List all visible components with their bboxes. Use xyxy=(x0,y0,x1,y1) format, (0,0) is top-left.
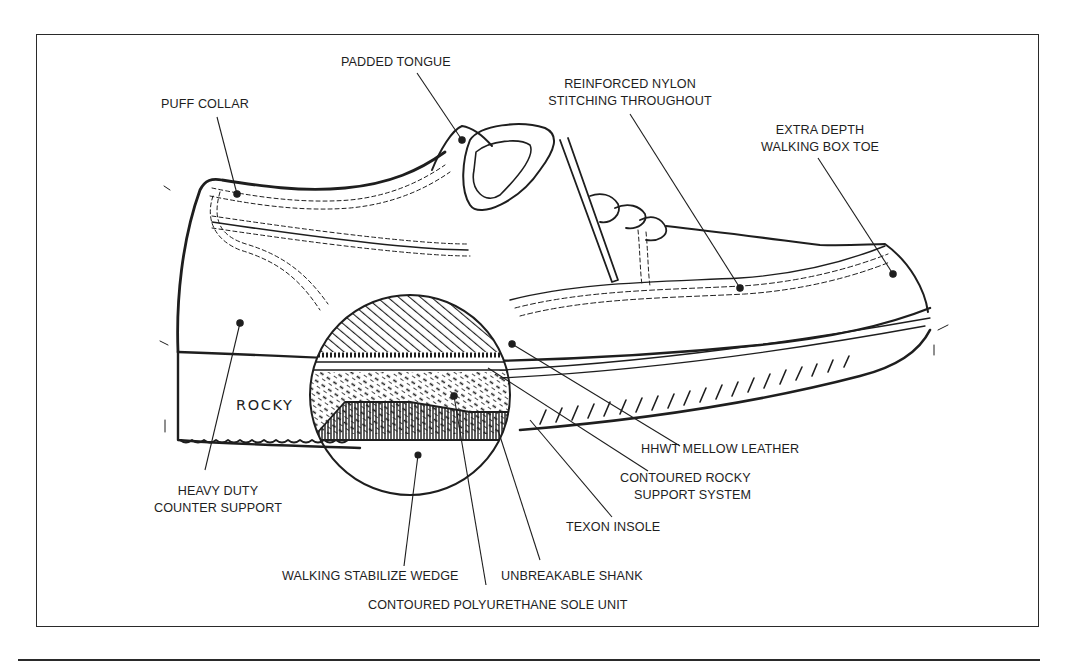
callout-line: REINFORCED NYLON xyxy=(539,76,721,93)
callout-padded-tongue: PADDED TONGUE xyxy=(341,54,451,71)
callout-line: PADDED TONGUE xyxy=(341,54,451,71)
callout-line: WALKING BOX TOE xyxy=(750,139,890,156)
callout-line: CONTOURED POLYURETHANE SOLE UNIT xyxy=(368,597,628,614)
callout-extra-depth-toe: EXTRA DEPTH WALKING BOX TOE xyxy=(750,122,890,156)
sole-cutaway-detail xyxy=(300,290,520,495)
callout-line: UNBREAKABLE SHANK xyxy=(501,568,643,585)
callout-walking-stabilize-wedge: WALKING STABILIZE WEDGE xyxy=(282,568,459,585)
callout-line: SUPPORT SYSTEM xyxy=(620,487,751,504)
callout-heavy-duty-counter: HEAVY DUTY COUNTER SUPPORT xyxy=(148,483,288,517)
callout-line: HEAVY DUTY xyxy=(148,483,288,500)
callout-line: COUNTER SUPPORT xyxy=(148,500,288,517)
callout-line: EXTRA DEPTH xyxy=(750,122,890,139)
callout-texon-insole: TEXON INSOLE xyxy=(566,519,660,536)
callout-line: STITCHING THROUGHOUT xyxy=(539,93,721,110)
callout-contoured-rocky-support: CONTOURED ROCKY SUPPORT SYSTEM xyxy=(620,470,751,504)
callout-unbreakable-shank: UNBREAKABLE SHANK xyxy=(501,568,643,585)
callout-reinforced-nylon-stitching: REINFORCED NYLON STITCHING THROUGHOUT xyxy=(539,76,721,110)
callout-line: WALKING STABILIZE WEDGE xyxy=(282,568,459,585)
callout-line: CONTOURED ROCKY xyxy=(620,470,751,487)
callout-line: HHWT MELLOW LEATHER xyxy=(641,441,799,458)
callout-polyurethane-sole-unit: CONTOURED POLYURETHANE SOLE UNIT xyxy=(368,597,628,614)
callout-line: PUFF COLLAR xyxy=(161,96,249,113)
callout-hhwt-leather: HHWT MELLOW LEATHER xyxy=(641,441,799,458)
callout-line: TEXON INSOLE xyxy=(566,519,660,536)
brand-logo: ROCKY xyxy=(236,397,293,413)
callout-puff-collar: PUFF COLLAR xyxy=(161,96,249,113)
